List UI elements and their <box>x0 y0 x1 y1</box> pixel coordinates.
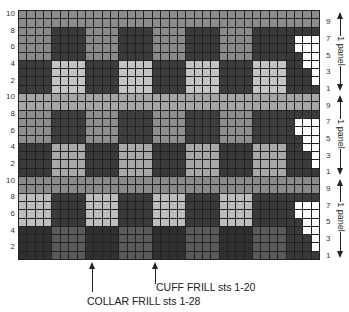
chart-cell <box>295 11 302 18</box>
chart-cell <box>245 169 252 176</box>
chart-cell <box>111 36 118 43</box>
chart-cell <box>111 210 118 217</box>
chart-cell <box>228 185 235 192</box>
chart-cell <box>186 235 193 242</box>
chart-cell <box>61 144 68 151</box>
chart-cell <box>161 111 168 118</box>
row-label-right: 9 <box>326 18 330 26</box>
chart-cell <box>312 102 319 109</box>
chart-cell <box>253 227 260 234</box>
chart-cell <box>36 127 43 134</box>
chart-cell <box>295 69 302 76</box>
chart-cell <box>19 53 26 60</box>
chart-cell <box>36 44 43 51</box>
chart-cell <box>211 119 218 126</box>
chart-cell <box>153 194 160 201</box>
chart-cell <box>19 185 26 192</box>
chart-cell <box>245 194 252 201</box>
chart-cell <box>19 61 26 68</box>
chart-cell <box>136 243 143 250</box>
chart-cell <box>111 61 118 68</box>
chart-cell <box>312 77 319 84</box>
chart-cell <box>261 202 268 209</box>
chart-cell <box>287 144 294 151</box>
chart-cell <box>195 28 202 35</box>
chart-cell <box>161 94 168 101</box>
row-label-left: 8 <box>4 110 15 118</box>
chart-cell <box>287 252 294 259</box>
chart-cell <box>220 144 227 151</box>
chart-cell <box>103 86 110 93</box>
chart-cell <box>236 11 243 18</box>
chart-cell <box>128 69 135 76</box>
chart-cell <box>111 102 118 109</box>
chart-cell <box>86 169 93 176</box>
chart-cell <box>278 53 285 60</box>
chart-cell <box>195 86 202 93</box>
chart-cell <box>61 227 68 234</box>
chart-cell <box>253 235 260 242</box>
chart-cell <box>19 152 26 159</box>
chart-cell <box>186 111 193 118</box>
chart-cell <box>136 152 143 159</box>
chart-cell <box>94 11 101 18</box>
chart-cell <box>136 19 143 26</box>
chart-cell <box>236 152 243 159</box>
chart-cell <box>261 185 268 192</box>
chart-cell <box>211 152 218 159</box>
chart-cell <box>44 44 51 51</box>
chart-cell <box>220 111 227 118</box>
chart-cell <box>278 77 285 84</box>
chart-cell <box>86 160 93 167</box>
chart-cell <box>287 28 294 35</box>
chart-cell <box>287 127 294 134</box>
chart-cell <box>195 202 202 209</box>
chart-cell <box>128 19 135 26</box>
chart-cell <box>36 77 43 84</box>
chart-cell <box>236 252 243 259</box>
chart-cell <box>36 210 43 217</box>
chart-cell <box>94 227 101 234</box>
chart-cell <box>178 227 185 234</box>
chart-cell <box>287 169 294 176</box>
chart-cell <box>261 119 268 126</box>
chart-cell <box>236 69 243 76</box>
chart-cell <box>211 227 218 234</box>
chart-cell <box>236 102 243 109</box>
chart-cell <box>78 136 85 143</box>
chart-cell <box>94 202 101 209</box>
chart-cell <box>261 77 268 84</box>
chart-cell <box>295 227 302 234</box>
chart-cell <box>111 243 118 250</box>
chart-cell <box>161 144 168 151</box>
chart-cell <box>220 102 227 109</box>
chart-cell <box>144 127 151 134</box>
chart-cell <box>170 152 177 159</box>
chart-cell <box>312 61 319 68</box>
chart-cell <box>44 243 51 250</box>
chart-cell <box>270 127 277 134</box>
chart-cell <box>86 210 93 217</box>
chart-cell <box>220 119 227 126</box>
chart-cell <box>178 144 185 151</box>
chart-cell <box>312 144 319 151</box>
chart-cell <box>153 127 160 134</box>
chart-cell <box>19 36 26 43</box>
chart-cell <box>170 36 177 43</box>
chart-cell <box>119 169 126 176</box>
chart-cell <box>303 86 310 93</box>
row-label-right: 9 <box>326 102 330 110</box>
row-label-left: 6 <box>4 210 15 218</box>
row-label-right: 5 <box>326 52 330 60</box>
chart-cell <box>78 69 85 76</box>
row-label-left: 6 <box>4 127 15 135</box>
chart-cell <box>178 235 185 242</box>
chart-cell <box>278 69 285 76</box>
chart-cell <box>111 202 118 209</box>
chart-cell <box>69 202 76 209</box>
chart-cell <box>128 243 135 250</box>
chart-cell <box>245 44 252 51</box>
row-label-right: 1 <box>326 168 330 176</box>
chart-cell <box>278 227 285 234</box>
chart-cell <box>245 219 252 226</box>
